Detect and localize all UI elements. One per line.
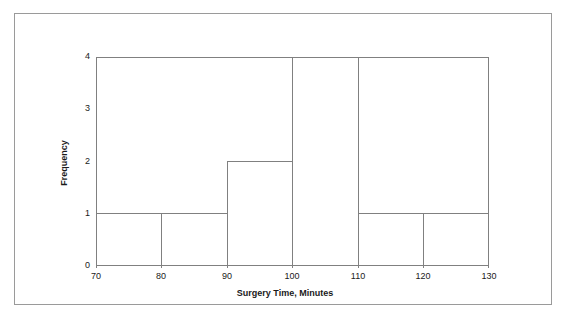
x-tick-label-100: 100: [272, 271, 312, 281]
histogram-bar: [293, 58, 359, 266]
x-tick-label-70: 70: [76, 271, 116, 281]
histogram-svg: [96, 57, 490, 268]
histogram-bar: [162, 214, 228, 266]
histogram-bar: [228, 162, 293, 266]
x-tick-label-80: 80: [141, 271, 181, 281]
histogram-bars: [97, 58, 489, 266]
y-tick-label-1: 1: [68, 208, 90, 218]
x-tick-label-130: 130: [469, 271, 509, 281]
x-tick-label-120: 120: [403, 271, 443, 281]
y-tick-label-4: 4: [68, 51, 90, 61]
histogram-bar: [424, 214, 489, 266]
x-tick-label-110: 110: [338, 271, 378, 281]
y-tick-label-3: 3: [68, 103, 90, 113]
histogram-bar: [97, 214, 162, 266]
histogram-figure: Frequency 0 1 2 3 4 70 80 90 100 110 120…: [0, 0, 570, 324]
y-tick-label-2: 2: [68, 156, 90, 166]
y-tick-label-0: 0: [68, 260, 90, 270]
histogram-bar: [359, 214, 424, 266]
x-axis-title: Surgery Time, Minutes: [0, 288, 570, 298]
x-tick-label-90: 90: [207, 271, 247, 281]
plot-area: [96, 57, 489, 266]
